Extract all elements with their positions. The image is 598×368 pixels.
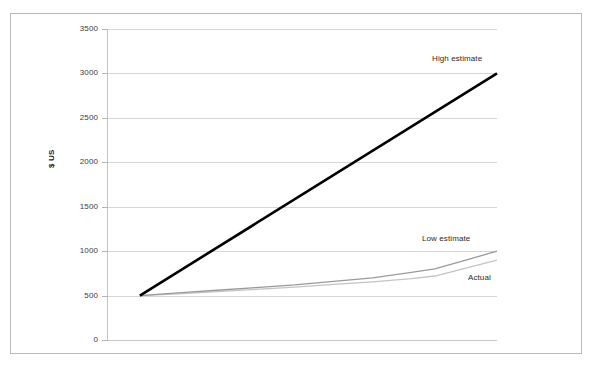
annotation-high-estimate: High estimate <box>432 54 482 63</box>
y-tick-label-1500: 1500 <box>64 203 98 211</box>
y-tick-label-0: 0 <box>64 336 98 344</box>
annotation-low-estimate: Low estimate <box>422 234 470 243</box>
annotation-actual: Actual <box>468 273 491 282</box>
chart-figure: $ US 0500100015002000250030003500 High e… <box>0 0 598 368</box>
y-tick-label-3000: 3000 <box>64 69 98 77</box>
plot-area <box>108 29 497 340</box>
y-tick-label-slot: 500 <box>62 292 98 300</box>
y-tick-label-500: 500 <box>64 292 98 300</box>
y-tick-label-slot: 1500 <box>62 203 98 211</box>
y-tick-label-1000: 1000 <box>64 247 98 255</box>
y-tick-label-slot: 3500 <box>62 25 98 33</box>
y-tick-label-slot: 0 <box>62 336 98 344</box>
y-tick-label-slot: 2000 <box>62 158 98 166</box>
series-layer <box>108 29 497 340</box>
y-tick-label-slot: 2500 <box>62 114 98 122</box>
y-tick-label-2000: 2000 <box>64 158 98 166</box>
series-line-high-estimate <box>140 73 497 295</box>
gridline-0 <box>108 340 497 341</box>
y-axis-title: $ US <box>47 149 56 168</box>
series-line-actual <box>140 260 497 296</box>
y-tick-label-2500: 2500 <box>64 114 98 122</box>
y-tick-label-3500: 3500 <box>64 25 98 33</box>
y-tick-label-slot: 1000 <box>62 247 98 255</box>
y-tick-label-slot: 3000 <box>62 69 98 77</box>
